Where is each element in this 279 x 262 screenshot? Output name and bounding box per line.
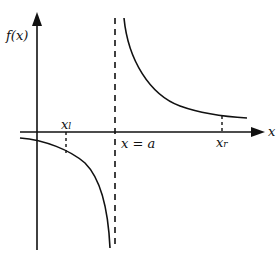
x-axis-label: x: [268, 125, 275, 138]
x-right-subscript: r: [223, 139, 227, 149]
x-right-label: xr: [216, 136, 228, 149]
asymptote-label: x = a: [121, 137, 155, 150]
y-axis-label: f(x): [6, 29, 28, 42]
right-branch-curve: [124, 18, 247, 118]
left-branch-curve: [20, 138, 110, 248]
x-axis-arrow-icon: [251, 127, 265, 137]
x-left-label: xl: [61, 118, 71, 131]
graph-canvas: [0, 0, 279, 262]
function-graph: f(x) x x = a xl xr: [0, 0, 279, 262]
x-left-subscript: l: [68, 121, 71, 131]
y-axis-arrow-icon: [32, 12, 42, 26]
